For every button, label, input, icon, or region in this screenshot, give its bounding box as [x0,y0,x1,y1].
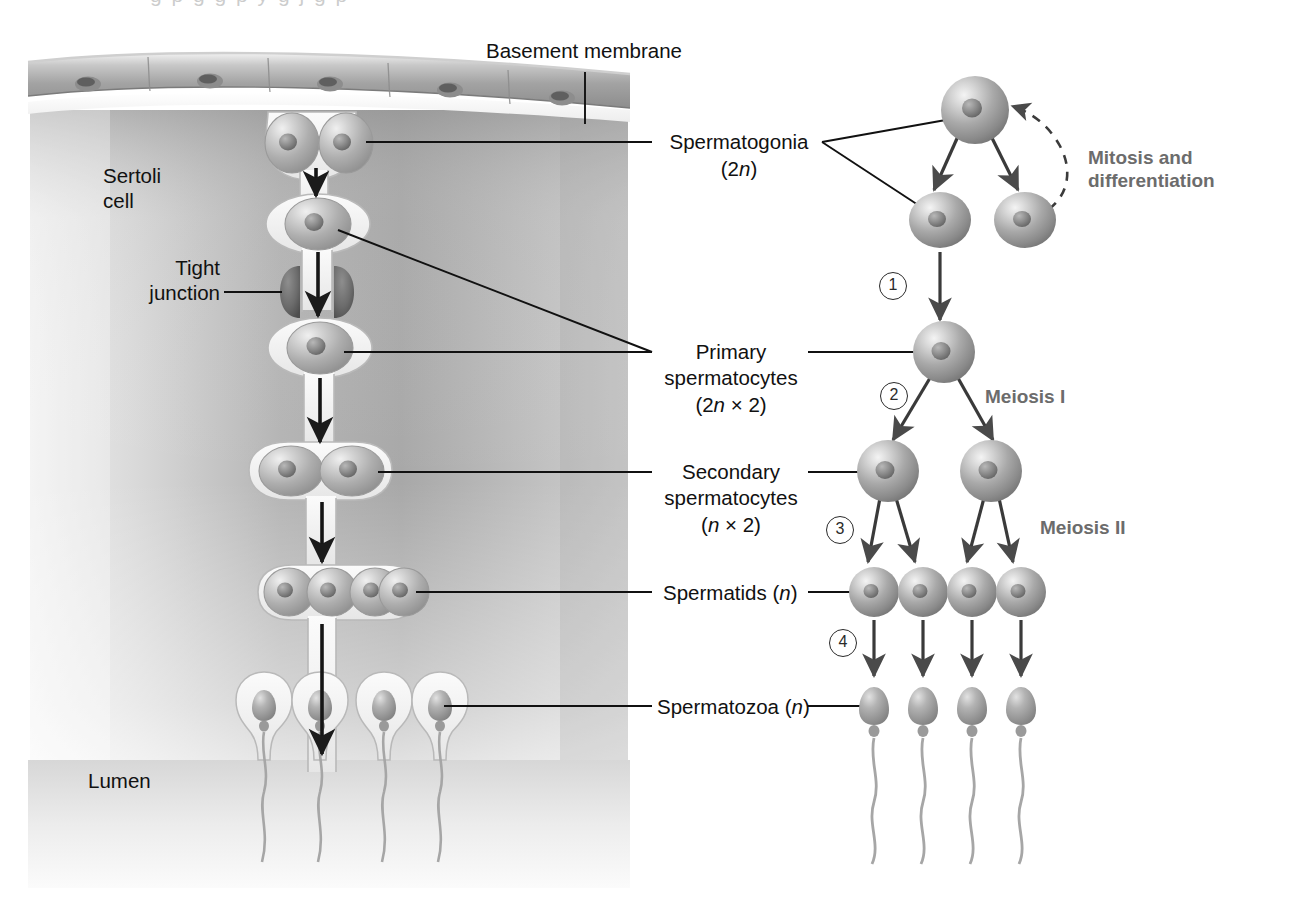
diagram-artwork [0,0,1294,908]
label-spermatogonia: Spermatogonia [655,129,823,154]
right-primary-spermatocyte [913,321,975,383]
step-number-2: 2 [880,382,908,410]
right-secondary-spermatocyte-right [960,440,1022,502]
leader-spermatogonia-right-top [822,118,957,142]
label-tight-junction-line1: Tight [60,255,220,280]
label-mitosis-and-differentiation-line2: differentiation [1088,169,1215,192]
right-spermatogonium-daughter-left [909,192,971,248]
figure-canvas: g p g g p y g j g p [0,0,1294,908]
label-mitosis-and-differentiation-line1: Mitosis and [1088,146,1193,169]
label-primary-spermatocytes-line2: spermatocytes [636,365,826,390]
label-spermatogonia-ploidy: (2n) [655,156,823,181]
label-spermatozoa-text: Spermatozoa [657,695,779,718]
right-sperm-1 [859,687,889,864]
label-lumen: Lumen [88,768,151,793]
right-spermatid-cells [849,567,1046,617]
label-tight-junction-line2: junction [40,280,220,305]
label-sertoli-cell-line1: Sertoli [103,163,161,188]
left-spermatid-cells [264,568,429,616]
label-spermatozoa: Spermatozoa (n) [657,694,810,719]
right-sperm-4 [1006,687,1036,864]
label-sertoli-cell-line2: cell [103,188,134,213]
right-sperm-2 [908,687,938,864]
step-number-1: 1 [879,272,907,300]
label-primary-spermatocytes-ploidy: (2n × 2) [636,392,826,417]
left-primary-spermatocyte-lower [287,322,353,374]
label-spermatids: Spermatids (n) [663,580,797,605]
step-number-4: 4 [829,629,857,657]
right-spermatogonium-daughter-right [994,192,1056,248]
right-spermatogonium-parent [941,76,1009,144]
label-secondary-spermatocytes-line2: spermatocytes [636,485,826,510]
label-secondary-spermatocytes-line1: Secondary [655,459,807,484]
label-meiosis-i: Meiosis I [985,385,1065,408]
label-spermatids-text: Spermatids [663,581,767,604]
right-sperm-3 [957,687,987,864]
step-number-3: 3 [826,516,854,544]
right-spermatozoa-group [859,687,1036,864]
label-secondary-spermatocytes-ploidy: (n × 2) [636,512,826,537]
label-primary-spermatocytes-line1: Primary [655,339,807,364]
label-basement-membrane: Basement membrane [486,38,682,63]
label-meiosis-ii: Meiosis II [1040,516,1126,539]
right-secondary-spermatocyte-left [857,440,919,502]
left-primary-spermatocyte-upper [285,198,351,250]
